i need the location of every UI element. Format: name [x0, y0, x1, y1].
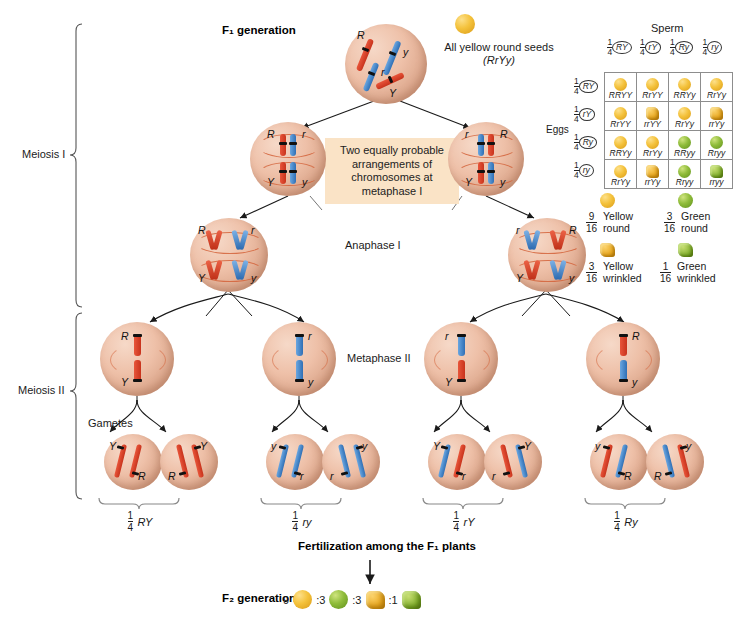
gamete3-upper: y [271, 440, 276, 452]
gamete5-lower: r [462, 470, 466, 482]
meta2-cell3-top: r [445, 330, 449, 342]
legend-seed-yellow-wrinkled-icon [600, 243, 615, 257]
meiosis-i-label: Meiosis I [22, 148, 65, 160]
f2-count-3: :1 [389, 594, 398, 606]
gamete2-upper: Y [200, 440, 207, 452]
ana1-left-Y: Y [198, 272, 205, 284]
gamete7-lower: R [624, 470, 632, 482]
f2-seed-yellow-round-icon [293, 590, 312, 609]
punnett-col-header-1: 14rY [635, 38, 666, 57]
meta1-right-r: r [465, 128, 469, 140]
sperm-label: Sperm [651, 22, 683, 34]
gamete-ratio-3-num: 1 [453, 510, 459, 521]
f2-seed-yellow-wrinkled-icon [366, 591, 385, 609]
gamete-cell-3: y r [266, 434, 324, 490]
punnett-row: RRYY RrYY RRYy RrYy [605, 73, 733, 102]
ana1-left-y: y [251, 272, 256, 284]
gamete-cell-1: Y R [104, 434, 162, 490]
f1-generation-label: F₁ generation [222, 24, 296, 36]
metaphase-ii-cell-3: r Y [424, 322, 498, 396]
metaphase-i-cell-left: R r Y y [250, 122, 326, 196]
gamete-ratio-1: 14 RY [110, 510, 170, 533]
meta1-left-R: R [267, 128, 275, 140]
meta2-cell3-bottom: Y [445, 376, 452, 388]
punnett-cell: RRYY [605, 73, 637, 102]
gamete-ratio-2-den: 4 [292, 521, 298, 533]
meta1-left-Y: Y [267, 176, 274, 188]
gamete-cell-6: Y r [484, 434, 542, 490]
f1-label-r: r [381, 66, 385, 78]
gamete1-lower: R [138, 470, 146, 482]
gamete-ratio-4: 14 Ry [596, 510, 656, 533]
f2-count-1: :3 [316, 594, 325, 606]
legend-seed-green-wrinkled-icon [678, 243, 693, 257]
ana1-right-r: r [516, 224, 520, 236]
punnett-col-header-0: 14RY [604, 38, 635, 57]
punnett-cell: RrYY [605, 102, 637, 131]
anaphase-i-cell-left: R r Y y [190, 218, 268, 292]
gamete-ratio-1-num: 1 [128, 510, 134, 521]
meta1-right-Y: Y [465, 176, 472, 188]
gamete-ratio-4-den: 4 [614, 521, 620, 533]
punnett-row-header-3: 14ry [574, 156, 598, 184]
gamete4-upper: y [362, 440, 367, 452]
f1-label-R: R [357, 29, 365, 41]
punnett-cell: rrYy [637, 160, 669, 189]
metaphase-ii-cell-2: r y [262, 322, 336, 396]
ana1-left-R: R [198, 224, 206, 236]
all-yellow-round-label: All yellow round seeds [439, 41, 559, 53]
gamete-ratio-1-den: 4 [128, 521, 134, 533]
metaphase-ii-cell-1: R Y [100, 322, 174, 396]
punnett-cell: RrYy [605, 160, 637, 189]
gamete-cell-8: y R [646, 434, 704, 490]
gamete-ratio-3-den: 4 [453, 521, 459, 533]
punnett-cell: RRyy [669, 131, 701, 160]
f2-seed-green-round-icon [329, 590, 348, 609]
f2-ratio-row: 9 :3 :3 :1 [283, 590, 423, 609]
punnett-col-headers: 14RY 14rY 14Ry 14ry [604, 38, 728, 57]
punnett-col-header-3: 14ry [697, 38, 728, 57]
legend-item-1: 316 Green round [664, 210, 710, 234]
gamete-cell-7: y R [590, 434, 648, 490]
meta2-cell4-top: R [632, 330, 640, 342]
ana1-right-R: R [569, 224, 577, 236]
f2-count-0: 9 [283, 594, 289, 606]
meta1-right-y: y [500, 176, 505, 188]
gamete7-upper: y [595, 440, 600, 452]
punnett-cell: RrYy [637, 131, 669, 160]
punnett-cell: RrYy [669, 102, 701, 131]
gamete2-lower: R [168, 470, 176, 482]
meta2-cell1-top: R [121, 330, 129, 342]
gamete-ratio-4-num: 1 [614, 510, 620, 521]
punnett-cell: rryy [701, 160, 733, 189]
meta2-cell2-top: r [308, 330, 312, 342]
gamete3-lower: r [300, 470, 304, 482]
fertilization-label: Fertilization among the F₁ plants [298, 540, 476, 552]
gamete-ratio-3-geno: rY [464, 516, 475, 528]
punnett-square: RRYY RrYY RRYy RrYy RrYY rrYY RrYy rrYy … [604, 72, 733, 189]
ana1-left-r: r [251, 224, 255, 236]
gamete-ratio-1-geno: RY [138, 516, 153, 528]
gamete4-lower: r [330, 470, 334, 482]
metaphase-ii-label: Metaphase II [347, 352, 411, 364]
gamete-cell-5: Y r [428, 434, 486, 490]
punnett-cell: Rryy [701, 131, 733, 160]
punnett-row: RRYy RrYy RRyy Rryy [605, 131, 733, 160]
legend-item-0: 916 Yellow round [586, 210, 633, 234]
anaphase-i-cell-right: r R Y y [508, 218, 586, 292]
meta2-cell4-bottom: y [632, 376, 637, 388]
gamete8-lower: R [654, 470, 662, 482]
gamete-cell-2: Y R [160, 434, 218, 490]
eggs-label: Eggs [546, 124, 569, 135]
punnett-row-header-2: 14Ry [574, 128, 598, 156]
gamete-cell-4: y r [322, 434, 380, 490]
f1-cell: R y r Y [345, 24, 427, 104]
punnett-cell: RRYy [605, 131, 637, 160]
meta1-left-r: r [302, 128, 306, 140]
gamete-ratio-2-num: 1 [292, 510, 298, 521]
meta2-cell1-bottom: Y [121, 376, 128, 388]
punnett-cell: rrYY [637, 102, 669, 131]
ana1-right-Y: Y [516, 272, 523, 284]
all-yellow-seed-icon [455, 14, 475, 34]
f2-count-2: :3 [352, 594, 361, 606]
